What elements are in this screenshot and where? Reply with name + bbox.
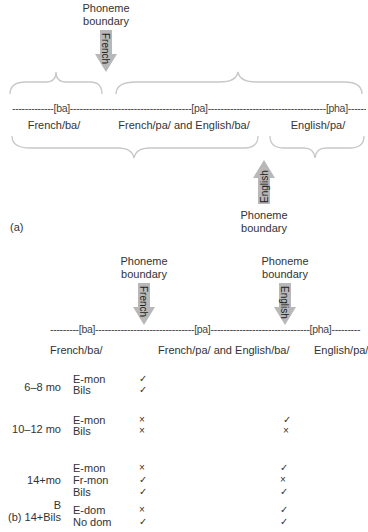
- category-french-ba-b: French/ba/: [50, 344, 103, 357]
- category-english-pa: English/pa/: [291, 119, 345, 132]
- diagram-graphics: French English French English: [0, 0, 368, 532]
- title-line: boundary: [120, 268, 167, 281]
- brace-english-pa-bottom: [270, 136, 364, 158]
- group-label: No dom: [73, 516, 112, 529]
- brace-french-pa-top: [116, 72, 362, 94]
- check-icon: ✓: [280, 486, 288, 497]
- title-line: boundary: [240, 222, 287, 235]
- english-arrow-label: English: [259, 170, 270, 203]
- title-line: boundary: [261, 268, 308, 281]
- group-label: Bils: [73, 384, 91, 397]
- brace-english-ba-bottom: [12, 136, 258, 158]
- check-icon: ✓: [139, 486, 147, 497]
- category-french-pa-english-ba: French/pa/ and English/ba/: [118, 119, 249, 132]
- title-line: Phoneme: [82, 2, 129, 15]
- cross-icon: ×: [139, 504, 145, 515]
- category-french-pa-english-ba-b: French/pa/ and English/ba/: [158, 344, 289, 357]
- category-english-pa-b: English/pa/: [314, 344, 368, 357]
- check-icon: ✓: [139, 474, 147, 485]
- cross-icon: ×: [139, 414, 145, 425]
- cross-icon: ×: [283, 425, 289, 436]
- brace-french-ba-top: [10, 72, 102, 94]
- french-arrow-label-b: French: [138, 286, 149, 317]
- english-boundary-arrow-a: English: [253, 160, 275, 204]
- phoneme-boundary-english-title: Phoneme boundary: [240, 209, 287, 235]
- group-label: Bils: [73, 425, 91, 438]
- cross-icon: ×: [139, 462, 145, 473]
- check-icon: ✓: [280, 462, 288, 473]
- category-french-ba: French/ba/: [28, 119, 81, 132]
- panel-b-label: (b): [8, 511, 21, 524]
- age-6-8mo: 6–8 mo: [24, 381, 61, 394]
- title-line: Phoneme: [120, 255, 167, 268]
- check-icon: ✓: [283, 414, 291, 425]
- title-line: Phoneme: [261, 255, 308, 268]
- age-10-12mo: 10–12 mo: [12, 423, 61, 436]
- cross-icon: ×: [280, 474, 286, 485]
- english-arrow-label-b: English: [279, 286, 290, 319]
- title-line: boundary: [82, 15, 129, 28]
- age-14-bils: 14+Bils: [25, 511, 61, 524]
- english-boundary-arrow-b: English: [274, 283, 296, 325]
- check-icon: ✓: [139, 384, 147, 395]
- continuum-line-a: -------------[ba]-----------------------…: [12, 102, 366, 114]
- french-boundary-arrow-a: French: [95, 30, 117, 72]
- age-14mo: 14+mo: [27, 474, 61, 487]
- check-icon: ✓: [280, 516, 288, 527]
- check-icon: ✓: [139, 516, 147, 527]
- title-line: Phoneme: [240, 209, 287, 222]
- check-icon: ✓: [139, 373, 147, 384]
- panel-a-label: (a): [10, 221, 23, 234]
- continuum-line-b: ---------[ba]---------------------------…: [50, 323, 366, 335]
- phoneme-boundary-english-title-b: Phoneme boundary: [261, 255, 308, 281]
- phoneme-boundary-french-title-b: Phoneme boundary: [120, 255, 167, 281]
- check-icon: ✓: [280, 504, 288, 515]
- phoneme-boundary-french-title: Phoneme boundary: [82, 2, 129, 28]
- french-boundary-arrow-b: French: [133, 283, 155, 325]
- french-arrow-label: French: [100, 33, 111, 64]
- group-label: Bils: [73, 486, 91, 499]
- cross-icon: ×: [139, 425, 145, 436]
